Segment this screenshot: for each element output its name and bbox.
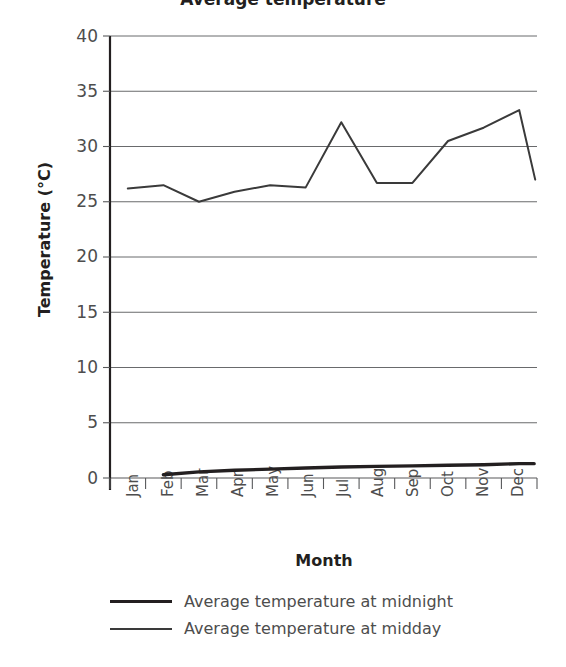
legend-item-label: Average temperature at midnight — [184, 592, 453, 611]
chart-legend: Average temperature at midnight Average … — [110, 588, 538, 642]
x-axis-title: Month — [110, 551, 538, 570]
legend-item-midday: Average temperature at midday — [110, 615, 538, 642]
legend-line-swatch-icon — [110, 600, 172, 603]
series-line-midday — [128, 110, 535, 202]
legend-line-swatch-icon — [110, 628, 172, 630]
series-line-midnight — [163, 464, 534, 475]
legend-item-label: Average temperature at midday — [184, 619, 441, 638]
temperature-line-chart: Average temperature Temperature (°C) 40 … — [0, 0, 566, 667]
legend-item-midnight: Average temperature at midnight — [110, 588, 538, 615]
